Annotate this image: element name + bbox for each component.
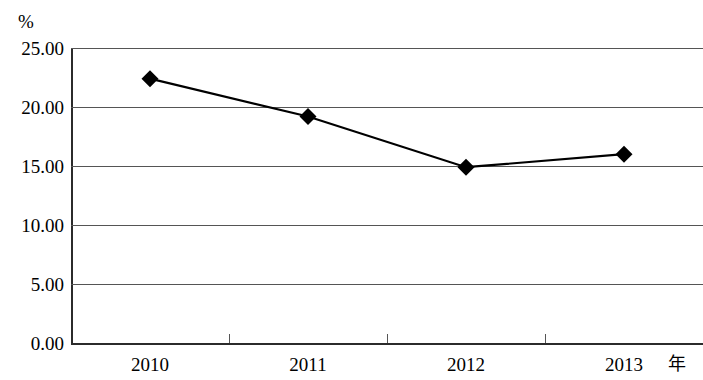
x-axis-tick-label: 2012 <box>447 355 485 374</box>
series-line <box>150 79 624 167</box>
data-point-marker <box>458 159 475 176</box>
series-line-layer <box>71 48 703 343</box>
data-point-marker <box>300 108 317 125</box>
y-axis-tick-label: 10.00 <box>21 216 64 235</box>
gridline <box>71 343 703 345</box>
y-axis-tick-label: 20.00 <box>21 98 64 117</box>
x-axis-tick-label: 2010 <box>131 355 169 374</box>
y-axis-tick-labels: 0.005.0010.0015.0020.0025.00 <box>0 0 64 380</box>
data-point-marker <box>616 146 633 163</box>
x-axis-unit-label: 年 <box>668 355 686 373</box>
plot-area <box>71 48 703 343</box>
x-axis-tick-label: 2013 <box>605 355 643 374</box>
y-axis-tick-label: 0.00 <box>31 334 64 353</box>
y-axis-tick-label: 5.00 <box>31 275 64 294</box>
y-axis-tick-label: 25.00 <box>21 39 64 58</box>
data-point-marker <box>142 70 159 87</box>
x-axis-tick-label: 2011 <box>289 355 326 374</box>
line-chart: % 年 0.005.0010.0015.0020.0025.00 2010201… <box>0 0 703 380</box>
y-axis-tick-label: 15.00 <box>21 157 64 176</box>
